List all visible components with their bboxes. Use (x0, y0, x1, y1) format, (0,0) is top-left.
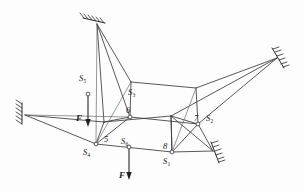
brace-left-to-node-5 (25, 115, 96, 144)
prism-top-face (130, 82, 198, 124)
support-left (16, 100, 22, 124)
force-left-arrowhead (85, 119, 90, 127)
member-top-left (130, 82, 131, 117)
support-left-tick-5 (16, 116, 22, 120)
brace-top-to-upper-back-left (97, 24, 131, 82)
support-bottomright-tick-6 (219, 160, 225, 162)
member-bottom-front (96, 144, 172, 152)
force-bottom-arrowhead (126, 172, 131, 180)
brace-top-to-node-5 (96, 24, 97, 144)
member-node5-to-upper-back-left (96, 82, 131, 144)
lower-cross-members (96, 82, 196, 152)
support-left-tick-6 (16, 120, 22, 124)
member-top-back (131, 82, 196, 88)
joint-node-8 (170, 150, 174, 154)
force-bottom-joint (127, 145, 131, 149)
brace-bottomright-to-node-7 (198, 124, 213, 151)
support-right (272, 47, 289, 68)
support-top-tick-1 (80, 13, 84, 18)
joint-node-6 (128, 115, 132, 119)
support-right-tick-3 (277, 54, 283, 56)
support-bottomright-tick-1 (212, 141, 218, 143)
brace-bottomright-to-node-8 (172, 151, 213, 152)
support-right-tick-1 (273, 47, 279, 49)
support-bottom-right (211, 141, 225, 163)
support-right-tick-5 (281, 62, 287, 64)
truss-diagram-figure: S5 S3 S2 S4 S6 S1 5 6 7 8 F F (0, 0, 304, 191)
top-support-braces (96, 24, 131, 144)
joint-node-7 (196, 122, 200, 126)
support-bottomright-tick-4 (216, 153, 222, 155)
truss-drawing-canvas (0, 0, 304, 191)
force-left-joint (86, 92, 90, 96)
joint-node-5 (94, 142, 98, 146)
member-top-front (130, 117, 198, 124)
support-right-tick-6 (283, 65, 289, 67)
support-left-tick-4 (16, 112, 22, 116)
support-bottomright-tick-5 (218, 157, 224, 159)
support-left-tick-2 (16, 104, 22, 108)
support-right-tick-4 (279, 58, 285, 60)
force-arrow-bottom (126, 145, 131, 180)
brace-right-to-upper-back-right (196, 58, 277, 88)
right-support-braces (171, 58, 277, 124)
force-arrow-left (85, 92, 90, 127)
support-bottomright-tick-3 (215, 149, 221, 151)
brace-top-to-node-6 (97, 24, 130, 117)
support-left-tick-3 (16, 108, 22, 112)
support-right-tick-2 (275, 50, 281, 52)
brace-top-to-lower-back-left (97, 24, 104, 122)
support-left-tick-1 (16, 100, 22, 104)
member-top-right (196, 88, 198, 124)
support-top (80, 13, 105, 23)
support-bottomright-tick-2 (213, 145, 219, 147)
brace-right-to-node-7 (198, 58, 277, 124)
